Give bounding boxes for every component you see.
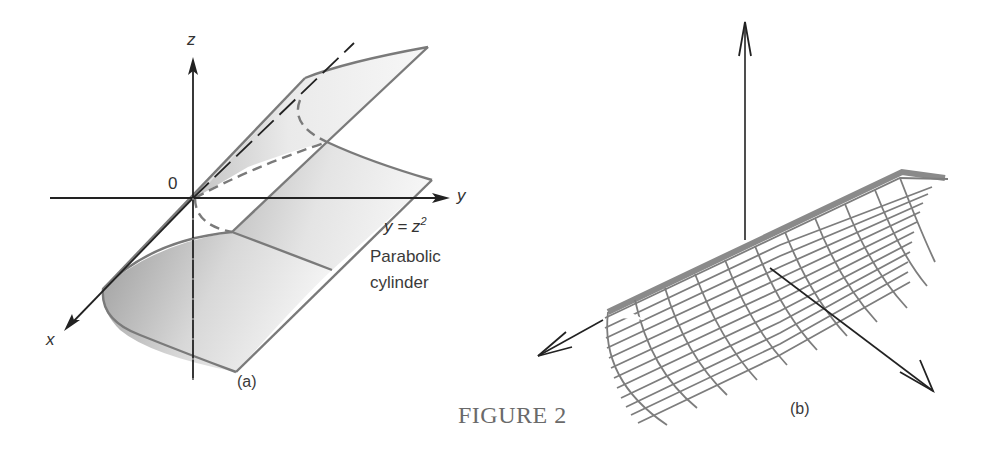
caption-line-2: cylinder xyxy=(370,270,429,296)
right-axis xyxy=(770,268,933,391)
left-axis xyxy=(538,320,603,356)
caption-line-1: Parabolic xyxy=(370,244,441,270)
equation-exponent: 2 xyxy=(420,215,426,227)
panel-a-parabolic-cylinder: z 0 y x y = z2 Parabolic cylinder (a) xyxy=(0,0,480,449)
figure-title: FIGURE 2 xyxy=(458,402,567,429)
panel-b-wireframe: (b) xyxy=(480,0,991,449)
equation-label: y = z2 xyxy=(384,215,427,237)
panel-b-label: (b) xyxy=(790,400,810,418)
wireframe-mesh xyxy=(605,172,948,425)
origin-label: 0 xyxy=(168,174,177,194)
equation-base: y = z xyxy=(384,217,420,236)
panel-b-diagram xyxy=(480,0,991,449)
panel-a-label: (a) xyxy=(237,373,257,391)
x-axis-label: x xyxy=(46,330,55,350)
y-axis-label: y xyxy=(457,186,466,206)
z-axis-label: z xyxy=(187,30,196,50)
left-axis-arrowhead xyxy=(538,332,572,356)
